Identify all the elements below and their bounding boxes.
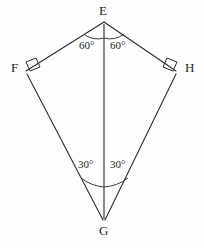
right-angle-square-h (163, 58, 177, 71)
angle-label-e-right: 60° (110, 40, 125, 51)
edge-F-G (27, 74, 103, 220)
geometry-figure: E F H G 60° 60° 30° 30° (0, 0, 204, 248)
vertex-label-h: H (185, 61, 194, 74)
angle-label-g-left: 30° (78, 159, 93, 170)
edge-H-G (105, 74, 176, 220)
geometry-canvas (0, 0, 204, 248)
vertex-label-g: G (99, 224, 108, 237)
angle-label-g-right: 30° (110, 159, 125, 170)
vertex-label-f: F (11, 61, 18, 74)
angle-label-e-left: 60° (79, 40, 94, 51)
angle-arc-g-left (81, 178, 104, 187)
vertex-label-e: E (99, 4, 107, 17)
